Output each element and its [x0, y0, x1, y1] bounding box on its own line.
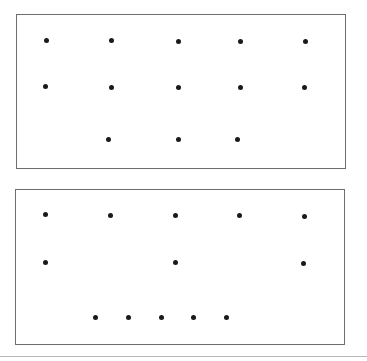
dot: [176, 137, 181, 142]
dot: [109, 38, 114, 43]
dot: [106, 137, 111, 142]
dot: [302, 85, 307, 90]
dot: [237, 213, 242, 218]
dot: [238, 39, 243, 44]
dot: [126, 315, 131, 320]
dot: [173, 213, 178, 218]
dot: [93, 315, 98, 320]
dot-panel-top: [16, 14, 346, 169]
dot: [44, 38, 49, 43]
dot: [43, 260, 48, 265]
dot: [176, 39, 181, 44]
dot: [302, 214, 307, 219]
dot: [176, 85, 181, 90]
dot: [301, 261, 306, 266]
dot: [224, 315, 229, 320]
bottom-divider-line: [0, 356, 367, 357]
dot: [43, 212, 48, 217]
dot: [43, 84, 48, 89]
dot-panel-bottom: [15, 189, 345, 345]
dot: [108, 213, 113, 218]
dot: [303, 39, 308, 44]
dot: [191, 315, 196, 320]
dot: [235, 137, 240, 142]
dot: [173, 260, 178, 265]
dot: [109, 85, 114, 90]
dot: [159, 315, 164, 320]
dot: [238, 85, 243, 90]
